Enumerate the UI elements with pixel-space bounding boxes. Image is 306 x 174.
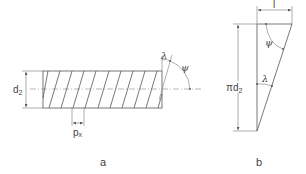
d2-dimension: d2 xyxy=(13,71,43,108)
lambda-label-a: λ xyxy=(160,50,167,61)
pitch-dimension: px xyxy=(72,108,84,138)
psi-label-a: ψ xyxy=(181,62,189,73)
helix-lines xyxy=(43,71,162,108)
lead-dimension: l xyxy=(257,0,292,24)
px-label: px xyxy=(73,127,83,138)
worm-geometry-diagram: d2 px λ ψ a l xyxy=(0,0,306,174)
worm-cylinder xyxy=(43,71,162,108)
circumference-dimension: πd2 xyxy=(226,24,257,131)
caption-a: a xyxy=(100,156,107,168)
figure-a: d2 px λ ψ a xyxy=(13,50,202,168)
figure-b: l πd2 ψ λ b xyxy=(226,0,292,168)
psi-label-b: ψ xyxy=(265,37,273,48)
angle-construction-a: λ ψ xyxy=(159,50,191,100)
lambda-label-b: λ xyxy=(261,73,268,84)
lambda-arc-b xyxy=(257,84,272,86)
caption-b: b xyxy=(256,156,262,168)
l-label: l xyxy=(273,0,275,10)
d2-label: d2 xyxy=(13,84,23,96)
